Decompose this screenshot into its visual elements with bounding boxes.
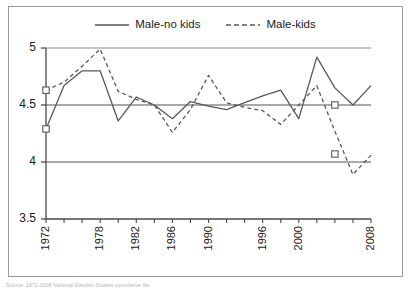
plot-area: 3.544.5519721978198219861990199620002008 (0, 0, 413, 291)
x-axis-tick-label: 1978 (94, 226, 105, 250)
series-line-male-kids (46, 49, 371, 174)
y-axis-tick-label: 4 (6, 155, 36, 167)
x-axis-tick-label: 1996 (257, 226, 268, 250)
data-point-marker (43, 126, 49, 132)
x-axis-tick-label: 1990 (203, 226, 214, 250)
data-point-marker (332, 102, 338, 108)
x-axis-tick-label: 1982 (130, 226, 141, 250)
y-axis-tick-label: 3.5 (6, 212, 36, 224)
data-point-marker (43, 87, 49, 93)
y-axis-tick-label: 4.5 (6, 98, 36, 110)
x-axis-tick-label: 2008 (365, 226, 376, 250)
x-axis-tick-label: 2000 (293, 226, 304, 250)
x-axis-tick-label: 1986 (166, 226, 177, 250)
x-axis-tick-label: 1972 (40, 226, 51, 250)
data-point-marker (332, 151, 338, 157)
chart-figure: Male-no kids Male-kids 3.544.55197219781… (0, 0, 413, 291)
y-axis-tick-label: 5 (6, 41, 36, 53)
source-note: Source: 1972-2008 National Election Stud… (6, 283, 336, 289)
series-line-male-no-kids (46, 57, 371, 129)
